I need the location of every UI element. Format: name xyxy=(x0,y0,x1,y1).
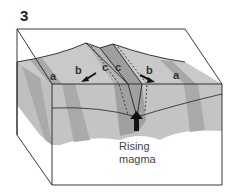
label-a-right: a xyxy=(173,69,180,81)
caption-rising: Rising xyxy=(119,140,150,152)
label-c-left: c xyxy=(102,61,108,73)
seafloor-spreading-diagram: a b c c b a Rising magma xyxy=(0,0,232,196)
label-b-right: b xyxy=(146,64,153,76)
label-b-left: b xyxy=(75,64,82,76)
label-a-left: a xyxy=(50,70,57,82)
label-c-right: c xyxy=(115,61,121,73)
caption-magma: magma xyxy=(119,153,157,165)
